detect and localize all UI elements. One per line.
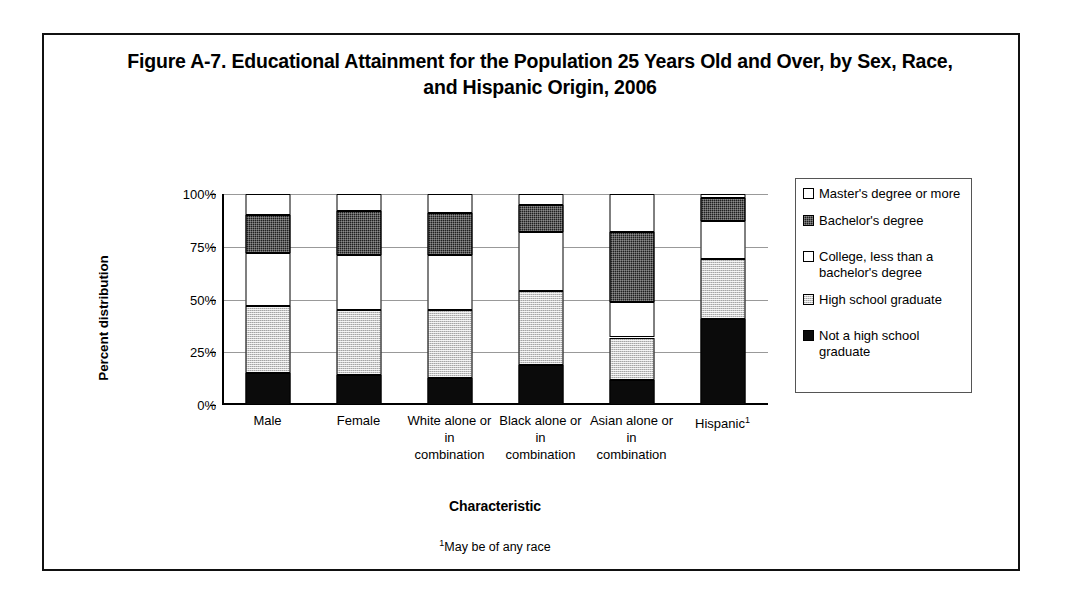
x-category-label: Female bbox=[313, 412, 404, 463]
bar-segment[interactable] bbox=[336, 375, 381, 405]
y-axis-title: Percent distribution bbox=[96, 48, 111, 228]
stacked-bar[interactable] bbox=[518, 194, 563, 405]
x-category-label-line: Hispanic1 bbox=[678, 412, 767, 432]
legend-label: High school graduate bbox=[819, 292, 942, 308]
legend-swatch-white-icon bbox=[803, 188, 814, 199]
legend-swatch-dark-icon bbox=[803, 215, 814, 226]
bar-segment[interactable] bbox=[245, 215, 290, 253]
bar-segment[interactable] bbox=[336, 255, 381, 310]
footnote-text: May be of any race bbox=[444, 540, 550, 554]
legend-item[interactable]: Not a high school graduate bbox=[803, 328, 965, 360]
bar-slot bbox=[495, 194, 586, 405]
bar-segment[interactable] bbox=[609, 338, 654, 380]
x-category-label-line: Male bbox=[223, 412, 312, 429]
bar-slot bbox=[222, 194, 313, 405]
stacked-bar[interactable] bbox=[427, 194, 472, 405]
x-category-label-line: White alone or in bbox=[405, 412, 494, 446]
stacked-bar[interactable] bbox=[700, 194, 745, 405]
bar-segment[interactable] bbox=[518, 365, 563, 405]
bar-segment[interactable] bbox=[427, 378, 472, 405]
bar-segment[interactable] bbox=[427, 310, 472, 378]
bar-slot bbox=[404, 194, 495, 405]
bar-segment[interactable] bbox=[245, 306, 290, 374]
legend-item[interactable]: Master's degree or more bbox=[803, 186, 965, 202]
y-tick-mark bbox=[210, 352, 216, 353]
bar-segment[interactable] bbox=[518, 205, 563, 232]
bar-segment[interactable] bbox=[518, 291, 563, 365]
x-category-label-line: combination bbox=[496, 446, 585, 463]
legend-swatch-white-icon bbox=[803, 251, 814, 262]
figure-page: Figure A-7. Educational Attainment for t… bbox=[0, 0, 1067, 603]
bar-segment[interactable] bbox=[427, 194, 472, 213]
bar-slot bbox=[677, 194, 768, 405]
bar-segment[interactable] bbox=[245, 194, 290, 215]
y-tick-mark bbox=[210, 300, 216, 301]
legend-label: Not a high school graduate bbox=[819, 328, 965, 360]
legend-item[interactable]: High school graduate bbox=[803, 292, 965, 308]
bar-segment[interactable] bbox=[336, 310, 381, 375]
bar-slot bbox=[313, 194, 404, 405]
legend-label: Bachelor's degree bbox=[819, 213, 923, 229]
legend-label: College, less than a bachelor's degree bbox=[819, 249, 965, 281]
y-tick-mark bbox=[210, 405, 216, 406]
bar-segment[interactable] bbox=[700, 198, 745, 221]
x-category-label: Black alone or incombination bbox=[495, 412, 586, 463]
bar-segment[interactable] bbox=[336, 211, 381, 255]
y-axis-title-text: Percent distribution bbox=[96, 228, 111, 408]
bar-segment[interactable] bbox=[700, 221, 745, 259]
bar-segment[interactable] bbox=[427, 213, 472, 255]
x-category-label: Male bbox=[222, 412, 313, 463]
figure-title: Figure A-7. Educational Attainment for t… bbox=[110, 48, 970, 100]
bar-segment[interactable] bbox=[518, 194, 563, 205]
bar-segment[interactable] bbox=[609, 194, 654, 232]
stacked-bar[interactable] bbox=[245, 194, 290, 405]
bar-segment[interactable] bbox=[427, 255, 472, 310]
x-axis-category-labels: MaleFemaleWhite alone or incombinationBl… bbox=[222, 412, 768, 463]
bar-segment[interactable] bbox=[336, 194, 381, 211]
legend-item[interactable]: College, less than a bachelor's degree bbox=[803, 249, 965, 281]
bar-segment[interactable] bbox=[245, 253, 290, 306]
plot-area bbox=[222, 194, 768, 405]
bar-segment[interactable] bbox=[609, 380, 654, 405]
x-axis-title: Characteristic bbox=[222, 498, 768, 514]
x-category-label: White alone or incombination bbox=[404, 412, 495, 463]
x-category-label-line: Black alone or in bbox=[496, 412, 585, 446]
bar-segment[interactable] bbox=[700, 194, 745, 198]
x-category-label: Hispanic1 bbox=[677, 412, 768, 463]
legend-label: Master's degree or more bbox=[819, 186, 960, 202]
figure-footnote: 1May be of any race bbox=[222, 538, 768, 554]
stacked-bar[interactable] bbox=[609, 194, 654, 405]
bar-segment[interactable] bbox=[700, 319, 745, 406]
x-category-footnote-marker: 1 bbox=[745, 415, 750, 425]
legend-item[interactable]: Bachelor's degree bbox=[803, 213, 965, 229]
x-category-label: Asian alone or incombination bbox=[586, 412, 677, 463]
legend-swatch-black-icon bbox=[803, 330, 814, 341]
x-category-label-line: Asian alone or in bbox=[587, 412, 676, 446]
legend-swatch-gray-icon bbox=[803, 294, 814, 305]
y-tick-mark bbox=[210, 194, 216, 195]
bar-group bbox=[222, 194, 768, 405]
bar-segment[interactable] bbox=[700, 259, 745, 318]
bar-segment[interactable] bbox=[609, 232, 654, 302]
x-category-label-line: combination bbox=[587, 446, 676, 463]
stacked-bar[interactable] bbox=[336, 194, 381, 405]
x-category-label-line: combination bbox=[405, 446, 494, 463]
x-category-label-line: Female bbox=[314, 412, 403, 429]
chart-legend: Master's degree or moreBachelor's degree… bbox=[795, 178, 972, 393]
bar-segment[interactable] bbox=[245, 373, 290, 405]
bar-segment[interactable] bbox=[518, 232, 563, 291]
bar-segment[interactable] bbox=[609, 302, 654, 338]
y-tick-mark bbox=[210, 247, 216, 248]
y-axis-tick-labels: 0%25%50%75%100% bbox=[160, 194, 216, 405]
bar-slot bbox=[586, 194, 677, 405]
